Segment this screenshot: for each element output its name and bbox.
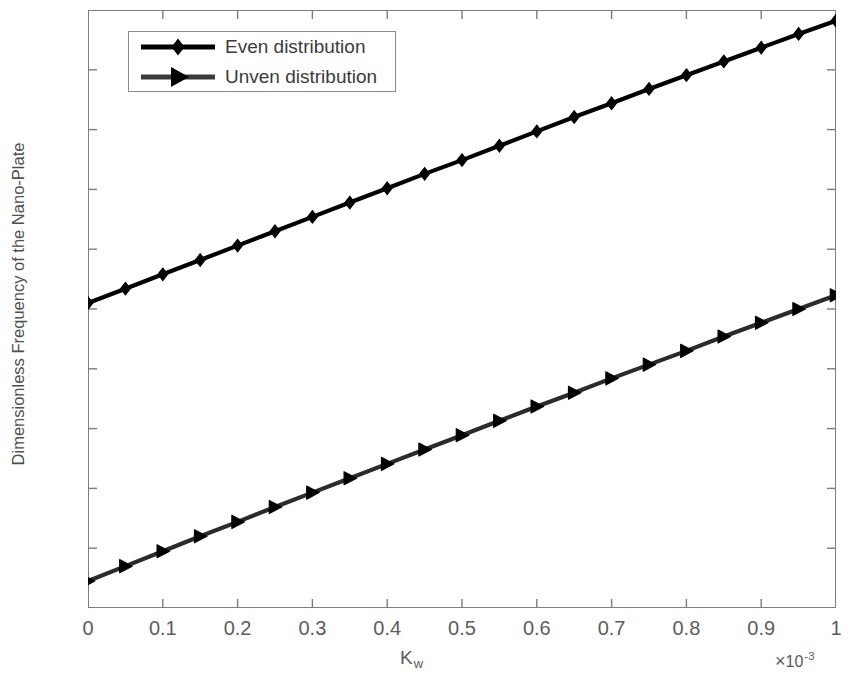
legend: Even distribution Unven distribution	[128, 31, 396, 92]
x-axis-tick-labels: 00.10.20.30.40.50.60.70.80.91	[0, 0, 850, 683]
figure-canvas: 0.320.330.340.350.360.370.380.390.40.410…	[0, 0, 850, 683]
legend-item-unven-distribution: Unven distribution	[129, 62, 395, 92]
x-tick-label: 0.3	[298, 618, 326, 638]
x-tick-label: 0.9	[747, 618, 775, 638]
legend-swatch-diamond-icon	[139, 34, 217, 60]
y-axis-title: Dimensionless Frequency of the Nano-Plat…	[9, 94, 27, 514]
x-tick-label: 0.1	[149, 618, 177, 638]
multiplier-mantissa: 10	[786, 653, 804, 670]
x-tick-label: 0.4	[373, 618, 401, 638]
x-axis-title: Kw	[400, 648, 423, 674]
x-tick-label: 0.8	[672, 618, 700, 638]
x-tick-label: 0	[82, 618, 93, 638]
x-tick-label: 1	[830, 618, 841, 638]
legend-item-even-distribution: Even distribution	[129, 32, 395, 62]
x-axis-title-base: K	[400, 647, 413, 668]
multiplier-exponent: -3	[804, 650, 814, 662]
x-tick-label: 0.2	[224, 618, 252, 638]
legend-label-even-distribution: Even distribution	[225, 37, 365, 57]
x-tick-label: 0.5	[448, 618, 476, 638]
x-axis-title-subscript: w	[414, 656, 423, 671]
legend-swatch-triangle-icon	[139, 64, 217, 90]
legend-label-unven-distribution: Unven distribution	[225, 67, 377, 87]
x-tick-label: 0.7	[598, 618, 626, 638]
x-tick-label: 0.6	[523, 618, 551, 638]
multiplication-sign-icon: ×	[775, 651, 786, 671]
x-axis-scale-multiplier: ×10-3	[775, 646, 815, 672]
